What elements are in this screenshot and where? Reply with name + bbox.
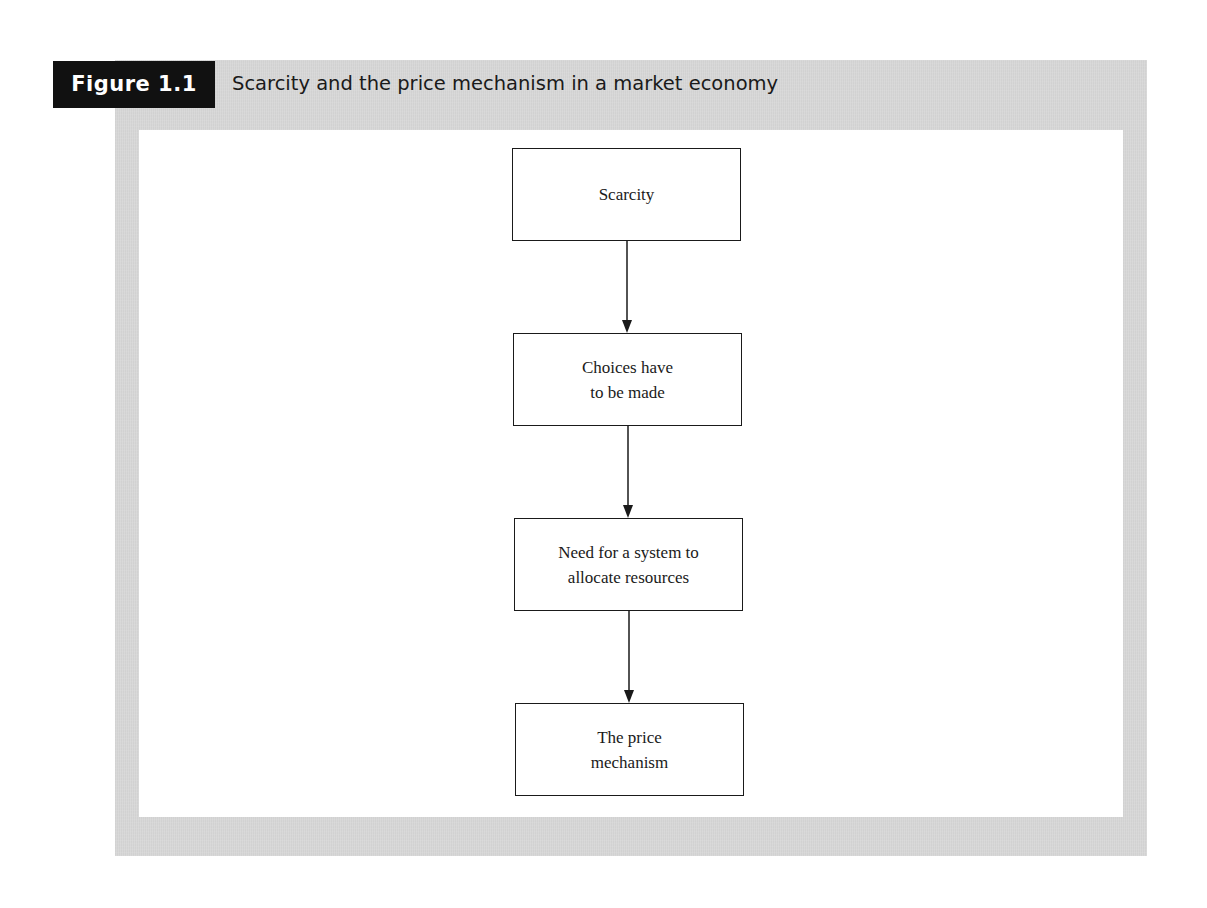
- flow-node-scarcity: Scarcity: [512, 148, 741, 241]
- arrow-down-icon: [621, 426, 635, 519]
- arrow-down-icon: [622, 611, 636, 704]
- flow-node-system: Need for a system to allocate resources: [514, 518, 743, 611]
- figure-label: Figure 1.1: [53, 61, 215, 108]
- flow-node-choices: Choices have to be made: [513, 333, 742, 426]
- arrow-down-icon: [620, 241, 634, 334]
- flow-node-price: The price mechanism: [515, 703, 744, 796]
- figure-title: Scarcity and the price mechanism in a ma…: [232, 66, 778, 102]
